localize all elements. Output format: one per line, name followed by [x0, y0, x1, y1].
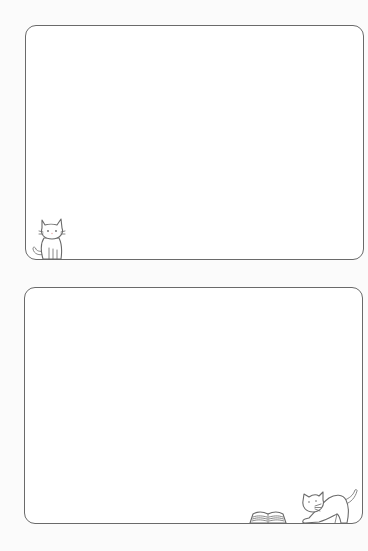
sitting-cat-icon	[31, 216, 69, 260]
note-frame-top	[25, 25, 364, 260]
open-book-icon	[248, 509, 288, 524]
stretching-cat-icon	[299, 488, 359, 524]
